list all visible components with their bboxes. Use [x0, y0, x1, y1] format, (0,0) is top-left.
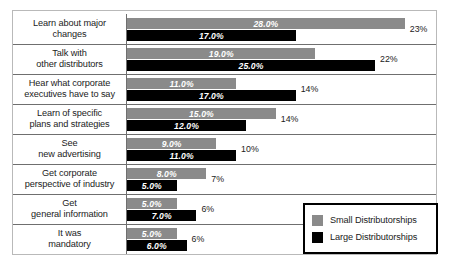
category-label-line: Learn about major — [33, 18, 106, 30]
category-label-line: Talk with — [52, 48, 86, 60]
bar-value-label: 12.0% — [174, 121, 199, 131]
total-value-label: 23% — [410, 24, 428, 34]
total-value-label: 22% — [380, 54, 398, 64]
bar-value-label: 7.0% — [152, 211, 172, 221]
bar-large-distributorships: 6.0% — [127, 240, 187, 251]
bar-large-distributorships: 17.0% — [127, 90, 296, 101]
bars-area: 15.0%12.0%14% — [127, 104, 436, 134]
legend-item-large: Large Distributorships — [312, 232, 429, 243]
bar-large-distributorships: 7.0% — [127, 210, 196, 221]
bar-large-distributorships: 12.0% — [127, 120, 246, 131]
category-label: Get corporateperspective of industry — [13, 164, 126, 194]
bars-area: 19.0%25.0%22% — [127, 44, 436, 74]
bar-small-distributorships: 19.0% — [127, 48, 315, 59]
bar-value-label: 17.0% — [199, 31, 224, 41]
chart-row: Seenew advertising9.0%11.0%10% — [13, 134, 436, 164]
category-label: Seenew advertising — [13, 134, 126, 164]
bar-small-distributorships: 5.0% — [127, 198, 177, 209]
category-label-line: new advertising — [38, 149, 100, 161]
bars-area: 8.0%5.0%7% — [127, 164, 436, 194]
category-label: Getgeneral information — [13, 194, 126, 224]
category-label-line: plans and strategies — [29, 119, 109, 131]
legend-item-small: Small Distributorships — [312, 215, 429, 226]
category-label-line: It was — [58, 228, 81, 240]
bar-value-label: 19.0% — [209, 49, 234, 59]
total-value-label: 6% — [201, 204, 214, 214]
bar-small-distributorships: 28.0% — [127, 18, 405, 29]
category-label-line: other distributors — [36, 59, 103, 71]
total-value-label: 7% — [211, 174, 224, 184]
total-value-label: 14% — [301, 84, 319, 94]
category-label-line: Hear what corporate — [29, 78, 110, 90]
bar-value-label: 28.0% — [253, 19, 278, 29]
category-label-line: executives have to say — [24, 89, 115, 101]
total-value-label: 14% — [281, 114, 299, 124]
bar-value-label: 11.0% — [169, 79, 193, 89]
total-value-label: 6% — [192, 234, 205, 244]
chart-row: Learn about majorchanges28.0%17.0%23% — [13, 14, 436, 44]
bar-large-distributorships: 25.0% — [127, 60, 375, 71]
bar-large-distributorships: 17.0% — [127, 30, 296, 41]
bar-small-distributorships: 15.0% — [127, 108, 276, 119]
total-value-label: 10% — [241, 144, 259, 154]
bar-value-label: 9.0% — [162, 139, 182, 149]
bar-value-label: 25.0% — [239, 61, 264, 71]
chart-row: Learn of specificplans and strategies15.… — [13, 104, 436, 134]
legend-label-large: Large Distributorships — [330, 232, 417, 242]
category-label-line: Learn of specific — [37, 108, 102, 120]
category-label-line: See — [61, 138, 77, 150]
legend-swatch-large-icon — [312, 232, 323, 243]
bar-small-distributorships: 5.0% — [127, 228, 177, 239]
bars-area: 28.0%17.0%23% — [127, 14, 436, 44]
category-label-line: changes — [52, 29, 86, 41]
bar-small-distributorships: 9.0% — [127, 138, 216, 149]
category-label-line: mandatory — [48, 239, 91, 251]
category-label-line: Get — [62, 198, 77, 210]
bar-small-distributorships: 8.0% — [127, 168, 206, 179]
bar-value-label: 5.0% — [142, 229, 162, 239]
bar-value-label: 5.0% — [142, 181, 162, 191]
chart-row: Get corporateperspective of industry8.0%… — [13, 164, 436, 194]
legend-label-small: Small Distributorships — [330, 215, 417, 225]
bar-value-label: 8.0% — [157, 169, 177, 179]
bar-value-label: 17.0% — [199, 91, 224, 101]
bars-area: 11.0%17.0%14% — [127, 74, 436, 104]
category-label-line: Get corporate — [42, 168, 97, 180]
legend-swatch-small-icon — [312, 215, 323, 226]
category-label: It wasmandatory — [13, 224, 126, 254]
bar-value-label: 5.0% — [142, 199, 162, 209]
chart-row: Hear what corporateexecutives have to sa… — [13, 74, 436, 104]
category-label: Hear what corporateexecutives have to sa… — [13, 74, 126, 104]
bar-value-label: 15.0% — [189, 109, 214, 119]
category-label: Talk withother distributors — [13, 44, 126, 74]
category-label-line: perspective of industry — [25, 179, 115, 191]
chart-legend: Small Distributorships Large Distributor… — [303, 203, 438, 254]
bar-value-label: 11.0% — [169, 151, 193, 161]
category-label-line: general information — [31, 209, 108, 221]
bars-area: 9.0%11.0%10% — [127, 134, 436, 164]
bar-small-distributorships: 11.0% — [127, 78, 236, 89]
bar-large-distributorships: 11.0% — [127, 150, 236, 161]
category-label: Learn of specificplans and strategies — [13, 104, 126, 134]
bar-large-distributorships: 5.0% — [127, 180, 177, 191]
chart-row: Talk withother distributors19.0%25.0%22% — [13, 44, 436, 74]
bar-value-label: 6.0% — [147, 241, 167, 251]
category-label: Learn about majorchanges — [13, 14, 126, 44]
chart-frame: Learn about majorchanges28.0%17.0%23%Tal… — [12, 10, 437, 255]
